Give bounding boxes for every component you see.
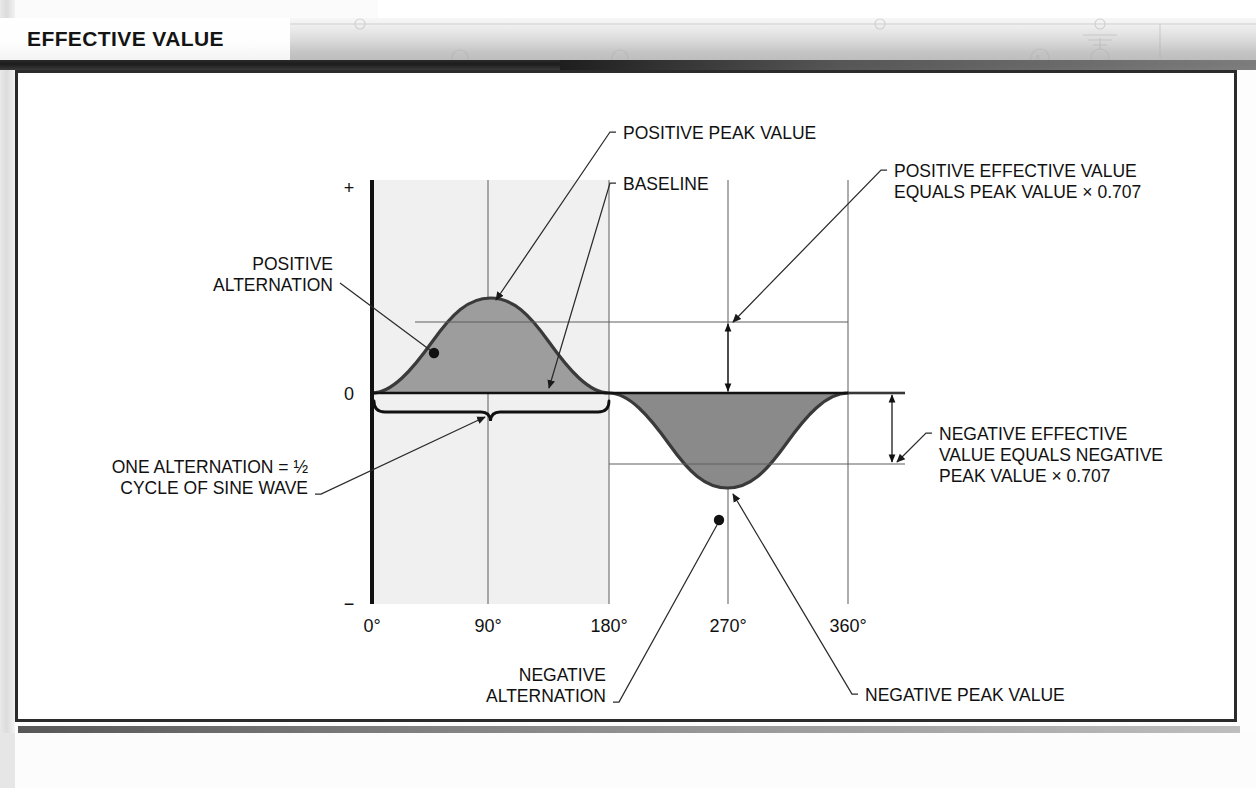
positive-peak-label: POSITIVE PEAK VALUE — [623, 123, 816, 143]
title-plate: EFFECTIVE VALUE — [0, 18, 290, 60]
page-top-white-strip — [378, 0, 1256, 18]
x-tick-0: 0° — [363, 616, 380, 636]
negative-alternation-label-1: NEGATIVE — [519, 665, 606, 685]
one-alternation-label-2: CYCLE OF SINE WAVE — [120, 478, 308, 498]
negative-peak-callout: NEGATIVE PEAK VALUE — [733, 494, 1065, 705]
negative-alternation-fill — [609, 393, 848, 488]
page-bottom-left-margin — [0, 733, 15, 788]
y-axis-negative-label: − — [344, 594, 355, 614]
page-title: EFFECTIVE VALUE — [27, 27, 224, 51]
positive-effective-label-2: EQUALS PEAK VALUE × 0.707 — [894, 182, 1141, 202]
x-tick-180: 180° — [590, 616, 627, 636]
banner-rule-gradient — [560, 60, 1256, 70]
content-frame-shadow — [18, 726, 1240, 733]
page-left-margin — [0, 0, 15, 788]
negative-effective-label-2: VALUE EQUALS NEGATIVE — [939, 445, 1163, 465]
positive-alternation-label-2: ALTERNATION — [213, 275, 333, 295]
positive-alternation-dot — [429, 348, 439, 358]
x-tick-90: 90° — [474, 616, 501, 636]
one-alternation-label-1: ONE ALTERNATION = ½ — [112, 457, 309, 477]
y-axis-zero-label: 0 — [344, 384, 354, 404]
negative-alternation-label-2: ALTERNATION — [486, 686, 606, 706]
negative-effective-label-1: NEGATIVE EFFECTIVE — [939, 424, 1127, 444]
page-top-left-notch — [0, 0, 378, 18]
svg-text:A: A — [1034, 53, 1042, 60]
negative-effective-label-3: PEAK VALUE × 0.707 — [939, 466, 1110, 486]
positive-effective-callout: POSITIVE EFFECTIVE VALUE EQUALS PEAK VAL… — [733, 161, 1141, 322]
negative-effective-callout: NEGATIVE EFFECTIVE VALUE EQUALS NEGATIVE… — [897, 424, 1163, 486]
x-tick-360: 360° — [829, 616, 866, 636]
effective-value-diagram: + 0 − 0° 90° 180° 270° 360° POSITIVE PEA… — [15, 70, 1237, 722]
positive-effective-label-1: POSITIVE EFFECTIVE VALUE — [894, 161, 1137, 181]
y-axis-positive-label: + — [344, 178, 355, 198]
baseline-label: BASELINE — [623, 174, 709, 194]
negative-alternation-dot — [714, 515, 724, 525]
negative-peak-label: NEGATIVE PEAK VALUE — [865, 685, 1065, 705]
page-bottom-area — [0, 733, 1256, 788]
x-tick-270: 270° — [709, 616, 746, 636]
positive-alternation-label-1: POSITIVE — [252, 254, 333, 274]
